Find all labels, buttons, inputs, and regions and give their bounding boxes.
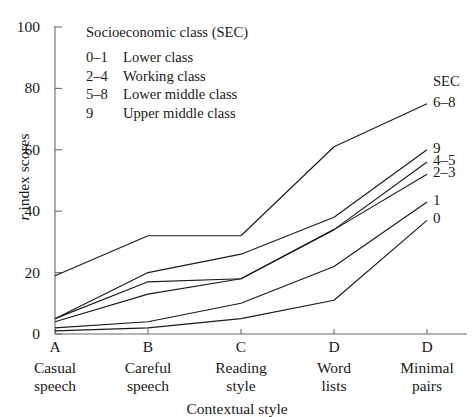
series-label-2–3: 2–3 (433, 164, 456, 181)
legend-row: 2–4 Working class (86, 67, 248, 86)
legend-code: 0–1 (86, 48, 123, 67)
x-axis-tick-label: D (299, 338, 369, 355)
series-label-6–8: 6–8 (433, 94, 456, 111)
legend-title: Socioeconomic class (SEC) (86, 24, 248, 41)
x-axis-tick-label: A (20, 338, 90, 355)
legend-row: 5–8 Lower middle class (86, 85, 248, 104)
legend-row: 9 Upper middle class (86, 104, 248, 123)
y-axis-tick-label: 20 (6, 264, 40, 281)
x-axis-category-label: Careful (103, 359, 193, 376)
x-axis-category-label: Minimal (382, 359, 472, 376)
series-line-9 (55, 150, 427, 319)
x-axis-category-label: speech (10, 377, 100, 394)
x-axis-category-label: speech (103, 377, 193, 394)
y-axis-tick-label: 40 (6, 202, 40, 219)
x-axis-tick-label: D (392, 338, 462, 355)
series-label-1: 1 (433, 192, 441, 209)
x-axis-category-label: pairs (382, 377, 472, 394)
legend-code: 9 (86, 104, 123, 123)
series-group-header: SEC (433, 73, 460, 89)
series-label-0: 0 (433, 210, 441, 227)
x-axis-title: Contextual style (167, 400, 307, 417)
y-axis-tick-label: 60 (6, 141, 40, 158)
x-axis-category-label: Word (289, 359, 379, 376)
series-line-0 (55, 220, 427, 331)
x-axis-tick-label: B (113, 338, 183, 355)
series-line-1 (55, 202, 427, 328)
x-axis-category-label: Casual (10, 359, 100, 376)
x-axis-tick-label: C (206, 338, 276, 355)
y-axis-title: r index scores (15, 112, 33, 242)
y-axis-tick-label: 80 (6, 79, 40, 96)
x-axis-category-label: style (196, 377, 286, 394)
series-line-2–3 (55, 174, 427, 321)
legend-text: Lower class (123, 48, 193, 67)
x-axis-category-label: lists (289, 377, 379, 394)
legend-row: 0–1 Lower class (86, 48, 248, 67)
x-axis-category-label: Reading (196, 359, 286, 376)
legend-text: Working class (123, 67, 206, 86)
legend-code: 2–4 (86, 67, 123, 86)
legend: Socioeconomic class (SEC) 0–1 Lower clas… (86, 24, 248, 123)
y-axis-tick-label: 100 (6, 18, 40, 35)
legend-text: Upper middle class (123, 104, 236, 123)
legend-text: Lower middle class (123, 85, 237, 104)
legend-code: 5–8 (86, 85, 123, 104)
